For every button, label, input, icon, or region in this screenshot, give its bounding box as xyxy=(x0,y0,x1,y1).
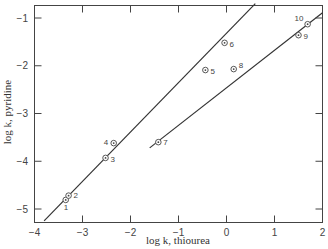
y-tick-label: −1 xyxy=(17,13,29,24)
x-tick-label: −2 xyxy=(125,227,137,238)
data-point-7: 7 xyxy=(156,138,169,147)
fit-lines xyxy=(44,4,322,221)
x-tick-label: −3 xyxy=(77,227,89,238)
data-point-3: 3 xyxy=(103,155,116,164)
point-center-dot xyxy=(68,195,70,197)
data-point-10: 10 xyxy=(295,14,311,27)
point-label: 8 xyxy=(239,61,244,70)
point-label: 4 xyxy=(104,138,109,147)
data-point-8: 8 xyxy=(231,61,244,72)
y-tick-label: −2 xyxy=(17,60,29,71)
point-label: 7 xyxy=(163,138,168,147)
point-label: 5 xyxy=(210,67,215,76)
data-point-5: 5 xyxy=(203,67,216,76)
point-center-dot xyxy=(307,23,309,25)
point-label: 10 xyxy=(295,14,304,23)
x-axis-label: log k, thiourea xyxy=(146,234,210,246)
data-point-1: 1 xyxy=(63,197,69,212)
point-label: 9 xyxy=(304,32,309,41)
point-center-dot xyxy=(224,42,226,44)
scatter-chart: −4−3−2−1012−1−2−3−4−5 12345678910 log k,… xyxy=(0,0,328,249)
data-point-6: 6 xyxy=(222,40,235,49)
point-center-dot xyxy=(298,34,300,36)
point-center-dot xyxy=(233,68,235,70)
point-center-dot xyxy=(157,141,159,143)
y-axis-label: log k, pyridine xyxy=(1,80,13,145)
point-label: 3 xyxy=(111,155,116,164)
point-label: 1 xyxy=(64,203,69,212)
x-tick-label: 1 xyxy=(272,227,278,238)
point-label: 2 xyxy=(74,191,79,200)
y-tick-label: −3 xyxy=(17,108,29,119)
x-tick-label: −4 xyxy=(29,227,41,238)
x-tick-label: 2 xyxy=(320,227,326,238)
data-point-4: 4 xyxy=(104,138,117,147)
point-center-dot xyxy=(113,142,115,144)
point-center-dot xyxy=(65,199,67,201)
point-center-dot xyxy=(105,157,107,159)
point-center-dot xyxy=(204,69,206,71)
x-tick-label: 0 xyxy=(224,227,230,238)
y-tick-label: −5 xyxy=(17,204,29,215)
data-points: 12345678910 xyxy=(63,14,311,212)
data-point-9: 9 xyxy=(296,32,309,41)
y-tick-label: −4 xyxy=(17,156,29,167)
point-label: 6 xyxy=(230,40,235,49)
fit-line-upper xyxy=(44,4,255,221)
